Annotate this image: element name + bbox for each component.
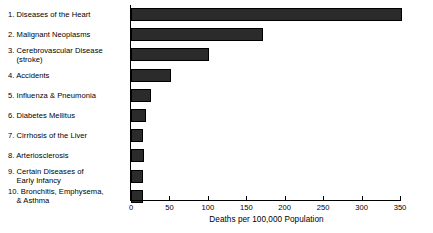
bar [131,109,146,122]
bar [131,149,144,162]
category-label: 3. Cerebrovascular Disease (stroke) [8,46,137,64]
y-axis-line [130,5,131,201]
x-axis-tick-label: 100 [202,203,215,212]
category-label: 4. Accidents [8,71,137,80]
category-label: 7. Cirrhosis of the Liver [8,131,137,140]
x-axis-tick [208,196,209,201]
x-axis-tick-label: 300 [355,203,368,212]
x-axis-tick [362,196,363,201]
x-axis-tick-label: 200 [278,203,291,212]
category-label: 5. Influenza & Pneumonia [8,91,137,100]
x-axis-tick-label: 0 [129,203,133,212]
bar [131,8,402,21]
category-label: 8. Arteriosclerosis [8,151,137,160]
x-axis-tick [169,196,170,201]
x-axis-tick-label: 150 [240,203,253,212]
bar [131,170,143,183]
bar [131,48,209,61]
bar [131,129,143,142]
x-axis-tick-label: 350 [394,203,407,212]
bar [131,69,171,82]
category-label: 10. Bronchitis, Emphysema, & Asthma [8,187,137,205]
x-axis-tick [131,196,132,201]
x-axis-tick-label: 50 [165,203,173,212]
category-label: 2. Malignant Neoplasms [8,30,137,39]
x-axis-tick [246,196,247,201]
bar [131,28,263,41]
category-label-column: 1. Diseases of the Heart2. Malignant Neo… [0,0,128,207]
bar-chart: 1. Diseases of the Heart2. Malignant Neo… [0,0,433,233]
x-axis-tick [400,196,401,201]
category-label: 9. Certain Diseases of Early Infancy [8,167,137,185]
x-axis-title: Deaths per 100,000 Population [131,215,402,225]
plot-area [131,0,433,233]
x-axis-tick [323,196,324,201]
x-axis-line [130,200,401,201]
category-label: 1. Diseases of the Heart [8,10,137,19]
category-label: 6. Diabetes Mellitus [8,111,137,120]
x-axis-tick [285,196,286,201]
bar [131,89,151,102]
x-axis-tick-label: 250 [317,203,330,212]
